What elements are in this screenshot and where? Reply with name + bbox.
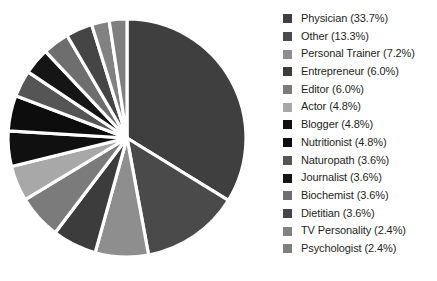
- legend-item[interactable]: Actor (4.8%): [283, 98, 437, 116]
- pie-slice-group: [8, 19, 246, 257]
- legend-item[interactable]: Entrepreneur (6.0%): [283, 63, 437, 81]
- legend-swatch-icon: [283, 156, 292, 165]
- legend-swatch-icon: [283, 14, 292, 23]
- legend-swatch-icon: [283, 209, 292, 218]
- pie-chart-figure: Physician (33.7%)Other (13.3%)Personal T…: [0, 0, 437, 281]
- legend-item[interactable]: Psychologist (2.4%): [283, 240, 437, 258]
- legend-item[interactable]: Blogger (4.8%): [283, 116, 437, 134]
- legend-item-label: Editor (6.0%): [301, 81, 364, 99]
- legend-item[interactable]: Biochemist (3.6%): [283, 187, 437, 205]
- legend-swatch-icon: [283, 85, 292, 94]
- pie-chart-svg: [0, 0, 268, 281]
- legend-item-label: Dietitian (3.6%): [301, 205, 375, 223]
- legend-swatch-icon: [283, 191, 292, 200]
- legend-swatch-icon: [283, 67, 292, 76]
- legend-item-label: Other (13.3%): [301, 28, 369, 46]
- pie-chart-plot-area: [0, 0, 268, 281]
- legend-item[interactable]: Editor (6.0%): [283, 81, 437, 99]
- legend-item[interactable]: Physician (33.7%): [283, 10, 437, 28]
- legend-item-label: Actor (4.8%): [301, 98, 361, 116]
- legend-swatch-icon: [283, 174, 292, 183]
- legend-item-label: Blogger (4.8%): [301, 116, 373, 134]
- legend-item[interactable]: Personal Trainer (7.2%): [283, 45, 437, 63]
- legend-item-label: Personal Trainer (7.2%): [301, 45, 415, 63]
- legend-swatch-icon: [283, 32, 292, 41]
- legend-item[interactable]: Journalist (3.6%): [283, 169, 437, 187]
- legend-swatch-icon: [283, 50, 292, 59]
- legend-item[interactable]: TV Personality (2.4%): [283, 222, 437, 240]
- legend-item[interactable]: Dietitian (3.6%): [283, 205, 437, 223]
- legend-swatch-icon: [283, 227, 292, 236]
- legend-item-label: TV Personality (2.4%): [301, 222, 406, 240]
- legend-swatch-icon: [283, 120, 292, 129]
- chart-legend: Physician (33.7%)Other (13.3%)Personal T…: [283, 10, 437, 272]
- legend-item-label: Physician (33.7%): [301, 10, 388, 28]
- legend-item[interactable]: Other (13.3%): [283, 28, 437, 46]
- legend-item[interactable]: Nutritionist (4.8%): [283, 134, 437, 152]
- legend-item-label: Entrepreneur (6.0%): [301, 63, 399, 81]
- legend-swatch-icon: [283, 138, 292, 147]
- legend-item-label: Psychologist (2.4%): [301, 240, 396, 258]
- legend-item[interactable]: Naturopath (3.6%): [283, 152, 437, 170]
- legend-swatch-icon: [283, 103, 292, 112]
- legend-item-label: Biochemist (3.6%): [301, 187, 389, 205]
- legend-item-label: Nutritionist (4.8%): [301, 134, 387, 152]
- legend-item-label: Naturopath (3.6%): [301, 152, 389, 170]
- legend-swatch-icon: [283, 244, 292, 253]
- legend-item-label: Journalist (3.6%): [301, 169, 382, 187]
